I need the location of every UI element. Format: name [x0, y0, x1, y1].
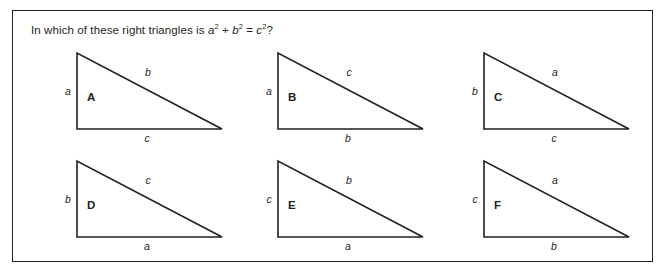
vertical-side-label-f: c — [466, 193, 484, 205]
base-side-label-b: b — [293, 132, 403, 144]
triangle-letter-e: E — [288, 199, 296, 211]
triangle-shape — [484, 161, 629, 237]
triangle-figure-f[interactable]: cabF — [466, 157, 666, 262]
triangle-shape — [278, 53, 423, 129]
triangle-shape — [484, 53, 629, 129]
hypotenuse-side-label-a: b — [133, 66, 163, 78]
triangle-letter-d: D — [87, 199, 95, 211]
triangle-figure-c[interactable]: bacC — [466, 49, 666, 154]
triangle-figure-b[interactable]: acbB — [260, 49, 460, 154]
triangle-shape — [77, 53, 222, 129]
hypotenuse-side-label-b: c — [334, 66, 364, 78]
vertical-side-label-b: a — [260, 85, 278, 97]
triangle-letter-b: B — [288, 91, 296, 103]
triangle-outline-d — [59, 157, 229, 242]
triangle-letter-c: C — [494, 91, 502, 103]
hypotenuse-side-label-c: a — [540, 66, 570, 78]
triangle-shape — [278, 161, 423, 237]
vertical-side-label-c: b — [466, 85, 484, 97]
triangle-figure-d[interactable]: bcaD — [59, 157, 259, 262]
base-side-label-f: b — [499, 240, 609, 252]
triangle-outline-a — [59, 49, 229, 134]
worksheet-panel: In which of these right triangles is a2 … — [12, 10, 653, 262]
base-side-label-d: a — [92, 240, 202, 252]
triangle-outline-e — [260, 157, 430, 242]
vertical-side-label-d: b — [59, 193, 77, 205]
hypotenuse-side-label-d: c — [133, 174, 163, 186]
triangle-outline-c — [466, 49, 636, 134]
base-side-label-e: a — [293, 240, 403, 252]
triangle-outline-f — [466, 157, 636, 242]
base-side-label-a: c — [92, 132, 202, 144]
hypotenuse-side-label-f: a — [540, 174, 570, 186]
triangle-figure-a[interactable]: abcA — [59, 49, 259, 154]
triangle-letter-a: A — [87, 91, 95, 103]
triangle-shape — [77, 161, 222, 237]
triangle-figure-e[interactable]: cbaE — [260, 157, 460, 262]
base-side-label-c: c — [499, 132, 609, 144]
vertical-side-label-e: c — [260, 193, 278, 205]
triangle-outline-b — [260, 49, 430, 134]
vertical-side-label-a: a — [59, 85, 77, 97]
triangle-letter-f: F — [494, 199, 501, 211]
triangle-grid: abcAacbBbacCbcaDcbaEcabF — [13, 11, 654, 263]
hypotenuse-side-label-e: b — [334, 174, 364, 186]
